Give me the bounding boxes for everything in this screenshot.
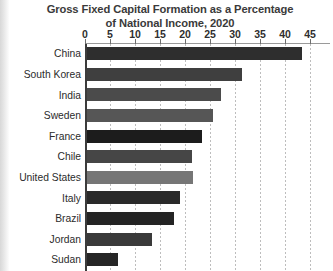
category-label-chile: Chile xyxy=(58,150,81,163)
category-label-italy: Italy xyxy=(62,192,81,205)
chart-title: Gross Fixed Capital Formation as a Perce… xyxy=(46,3,294,30)
bar-south-korea xyxy=(87,68,242,81)
category-label-sudan: Sudan xyxy=(51,253,81,266)
bar-sudan xyxy=(87,253,118,266)
bar-france xyxy=(87,130,202,143)
bar-china xyxy=(87,47,302,60)
bar-india xyxy=(87,88,221,101)
bar-italy xyxy=(87,191,180,204)
category-label-jordan: Jordan xyxy=(50,233,81,246)
category-label-sweden: Sweden xyxy=(44,109,81,122)
bar-chile xyxy=(87,150,192,163)
gridline-40 xyxy=(285,44,286,271)
gridline-35 xyxy=(260,44,261,271)
category-label-south-korea: South Korea xyxy=(24,68,81,81)
category-label-brazil: Brazil xyxy=(55,212,81,225)
bar-chart: Gross Fixed Capital Formation as a Perce… xyxy=(0,0,333,271)
bar-jordan xyxy=(87,233,152,246)
plot-area xyxy=(85,44,315,271)
gridline-45 xyxy=(310,44,311,271)
bar-sweden xyxy=(87,109,213,122)
bar-united-states xyxy=(87,171,193,184)
chart-title-line-1: Gross Fixed Capital Formation as a Perce… xyxy=(46,3,294,17)
category-label-china: China xyxy=(54,47,81,60)
category-label-india: India xyxy=(59,89,81,102)
category-label-france: France xyxy=(49,130,81,143)
bar-brazil xyxy=(87,212,174,225)
category-label-united-states: United States xyxy=(19,171,81,184)
